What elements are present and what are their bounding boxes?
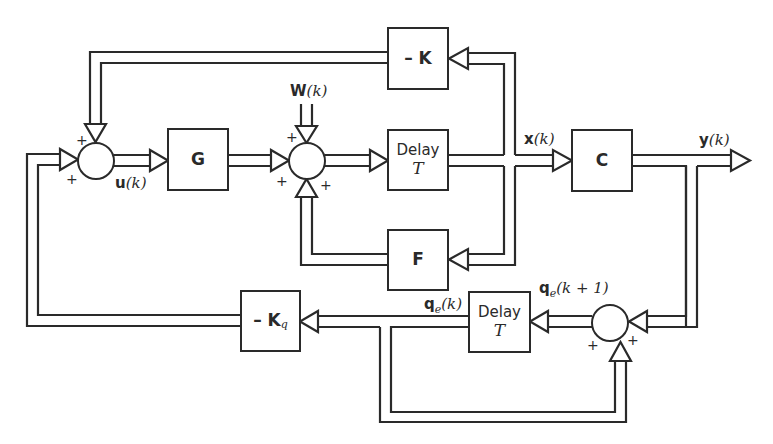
arrowhead-into-F — [449, 249, 468, 270]
arrowhead-into-delay2 — [530, 311, 548, 332]
wire-sum1-to-G — [114, 155, 150, 166]
arrowhead-into-sum2-left — [271, 150, 289, 171]
arrowhead-into-sum2-top — [296, 126, 317, 143]
sum2-sign-left: + — [276, 174, 288, 188]
wire-delay1-to-C — [448, 155, 553, 166]
block-negKq-label: – Kq — [241, 291, 300, 351]
signal-label-qe-k: qe(k) — [424, 297, 462, 315]
block-G-label: G — [168, 129, 228, 190]
signal-label-y: y(k) — [699, 133, 730, 148]
arrowhead-into-C — [553, 150, 572, 171]
wire-y-to-sum3 — [647, 166, 697, 327]
signal-label-W: W(k) — [290, 84, 327, 99]
summing-junction-3 — [592, 305, 628, 341]
sum3-sign-bottom: + — [587, 338, 599, 352]
block-C-label: C — [572, 130, 632, 191]
arrowhead-into-sum1-left — [60, 149, 78, 170]
wire-negK-to-sum1 — [90, 52, 388, 124]
wire-W-to-sum2 — [301, 104, 312, 126]
summing-junction-1 — [78, 143, 114, 179]
arrowhead-y-output — [731, 150, 750, 171]
wire-G-to-sum2 — [228, 155, 271, 166]
signal-label-x: x(k) — [524, 132, 554, 147]
block-delay1-label: Delay T — [388, 130, 448, 190]
wire-x-to-negK — [468, 53, 515, 155]
arrowhead-into-negKq — [300, 311, 318, 332]
wire-sum3-to-delay2 — [548, 316, 592, 327]
arrowhead-into-G — [150, 150, 168, 171]
block-F-label: F — [388, 230, 448, 290]
summing-junction-2 — [289, 143, 325, 179]
arrowhead-into-sum3-right — [629, 311, 647, 332]
sum2-sign-bottom: + — [320, 178, 332, 192]
arrowhead-into-negK — [449, 48, 468, 69]
wire-sum2-to-delay1 — [325, 155, 370, 166]
block-negK-label: – K — [388, 28, 448, 89]
arrowhead-into-sum1-top — [85, 124, 106, 142]
signal-label-u: u(k) — [115, 176, 146, 191]
wire-C-to-y — [632, 155, 731, 326]
block-delay2-label: Delay T — [469, 292, 530, 352]
arrowhead-into-delay1 — [370, 150, 388, 171]
sum3-sign-right: + — [627, 333, 639, 347]
wire-x-to-F — [468, 166, 515, 265]
sum2-sign-top: + — [286, 130, 298, 144]
sum1-sign-left: + — [66, 172, 78, 186]
wire-F-to-sum2 — [301, 197, 388, 265]
arrowhead-into-sum2-bottom — [296, 179, 317, 197]
block-diagram-canvas — [0, 0, 773, 444]
sum1-sign-top: + — [76, 133, 88, 147]
signal-label-qe-k-plus-1: qe(k + 1) — [539, 281, 609, 299]
